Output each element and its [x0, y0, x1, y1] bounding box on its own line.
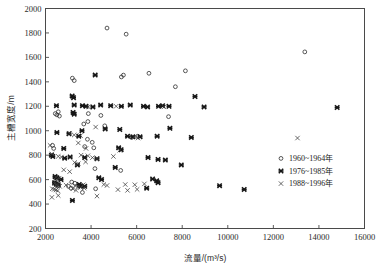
y-tick-label: 1800	[25, 28, 42, 38]
point-thin-cross	[90, 155, 94, 159]
point-bold-cross	[145, 105, 150, 109]
point-bold-cross	[242, 187, 247, 191]
point-bold-cross	[179, 163, 184, 167]
point-open-circle	[184, 69, 188, 73]
y-tick-label: 800	[29, 150, 42, 160]
point-bold-cross	[156, 157, 161, 161]
y-tick-label: 600	[29, 175, 42, 185]
point-bold-cross	[125, 134, 130, 138]
point-thin-cross	[67, 169, 71, 173]
point-thin-cross	[114, 104, 118, 108]
point-open-circle	[93, 167, 97, 171]
point-thin-cross	[83, 160, 87, 164]
scatter-chart-figure: 200040006000800010000120001400016000 200…	[0, 0, 381, 269]
point-open-circle	[99, 114, 103, 118]
point-open-circle	[279, 157, 283, 161]
y-axis-ticks	[46, 9, 50, 229]
point-thin-cross	[50, 195, 54, 199]
series-open-circle	[51, 26, 307, 194]
plot-frame	[46, 9, 365, 229]
data-points-layer	[48, 26, 340, 202]
point-thin-cross	[142, 182, 146, 186]
point-bold-cross	[79, 129, 84, 133]
point-open-circle	[167, 115, 171, 119]
legend-item[interactable]: 1960~1964年	[279, 153, 333, 163]
point-bold-cross	[146, 155, 151, 159]
x-axis-title: 流量/(m³/s)	[184, 253, 227, 263]
point-bold-cross	[93, 73, 98, 77]
point-bold-cross	[202, 105, 207, 109]
point-thin-cross	[56, 193, 60, 197]
point-bold-cross	[166, 104, 171, 108]
point-bold-cross	[99, 177, 104, 181]
y-tick-label: 1200	[25, 101, 42, 111]
point-open-circle	[82, 122, 86, 126]
point-thin-cross	[79, 153, 83, 157]
point-bold-cross	[189, 135, 194, 139]
point-thin-cross	[135, 187, 139, 191]
y-axis-tick-labels: 200400600800100012001400160018002000	[25, 4, 42, 234]
point-open-circle	[119, 169, 123, 173]
point-thin-cross	[123, 182, 127, 186]
legend-item[interactable]: 1976~1985年	[279, 166, 334, 176]
point-bold-cross	[54, 130, 59, 134]
point-bold-cross	[167, 126, 172, 130]
point-bold-cross	[108, 103, 113, 107]
point-bold-cross	[217, 184, 222, 188]
x-tick-label: 12000	[263, 232, 284, 242]
point-bold-cross	[68, 155, 73, 159]
legend-label: 1988~1996年	[289, 178, 333, 188]
y-tick-label: 1400	[25, 77, 42, 87]
point-bold-cross	[72, 103, 77, 107]
point-bold-cross	[144, 186, 149, 190]
point-bold-cross	[155, 134, 160, 138]
point-bold-cross	[279, 169, 284, 173]
chart-canvas: 200040006000800010000120001400016000 200…	[0, 0, 381, 269]
x-axis-tick-labels: 200040006000800010000120001400016000	[37, 232, 375, 242]
point-bold-cross	[98, 103, 103, 107]
point-thin-cross	[62, 168, 66, 172]
point-open-circle	[92, 146, 96, 150]
x-tick-label: 4000	[83, 232, 100, 242]
point-thin-cross	[95, 194, 99, 198]
point-bold-cross	[163, 158, 168, 162]
point-thin-cross	[133, 183, 137, 187]
point-open-circle	[86, 112, 90, 116]
point-open-circle	[124, 32, 128, 36]
point-thin-cross	[295, 136, 299, 140]
point-open-circle	[94, 187, 98, 191]
point-thin-cross	[116, 187, 120, 191]
chart-legend: 1960~1964年1976~1985年1988~1996年	[279, 153, 334, 188]
y-axis-title: 主槽宽度/m	[6, 95, 16, 140]
x-tick-label: 10000	[217, 232, 238, 242]
y-tick-label: 1000	[25, 126, 42, 136]
point-bold-cross	[335, 105, 340, 109]
legend-item[interactable]: 1988~1996年	[279, 178, 334, 188]
y-tick-label: 400	[29, 199, 42, 209]
point-open-circle	[90, 140, 94, 144]
x-tick-label: 8000	[174, 232, 191, 242]
point-bold-cross	[128, 103, 133, 107]
point-open-circle	[147, 71, 151, 75]
point-open-circle	[86, 120, 90, 124]
point-thin-cross	[105, 183, 109, 187]
y-tick-label: 200	[29, 224, 42, 234]
point-thin-cross	[72, 160, 76, 164]
point-bold-cross	[61, 146, 66, 150]
point-thin-cross	[76, 141, 80, 145]
point-bold-cross	[70, 198, 75, 202]
point-thin-cross	[102, 182, 106, 186]
point-bold-cross	[119, 104, 124, 108]
point-bold-cross	[192, 94, 197, 98]
point-bold-cross	[113, 165, 118, 169]
point-thin-cross	[93, 125, 97, 129]
point-bold-cross	[117, 127, 122, 131]
y-tick-label: 2000	[25, 4, 42, 14]
x-tick-label: 14000	[308, 232, 329, 242]
point-thin-cross	[279, 181, 283, 185]
y-tick-label: 1600	[25, 52, 42, 62]
point-bold-cross	[90, 105, 95, 109]
point-open-circle	[105, 26, 109, 30]
point-thin-cross	[111, 154, 115, 158]
x-tick-label: 16000	[354, 232, 375, 242]
